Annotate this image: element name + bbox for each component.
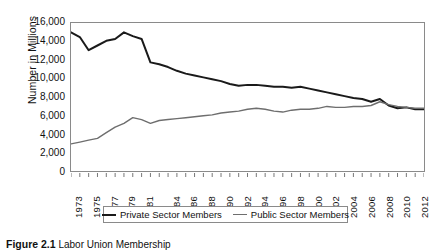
chart-legend: Private Sector Members Public Sector Mem… bbox=[103, 206, 348, 223]
figure-caption-number: Figure 2.1 bbox=[6, 238, 56, 250]
legend-line-public-icon bbox=[233, 214, 247, 215]
y-tick-label: 2,000 bbox=[20, 148, 65, 158]
y-tick-label: 8,000 bbox=[20, 92, 65, 102]
x-tick-label: 1975 bbox=[92, 196, 102, 218]
figure-caption: Figure 2.1 Labor Union Membership bbox=[6, 238, 431, 251]
y-tick-label: 0 bbox=[20, 167, 65, 177]
x-tick-label: 2008 bbox=[385, 196, 395, 218]
chart-lines bbox=[71, 23, 424, 178]
legend-item-private: Private Sector Members bbox=[102, 210, 222, 220]
y-tick-label: 14,000 bbox=[20, 36, 65, 46]
legend-item-public: Public Sector Members bbox=[233, 210, 349, 220]
x-tick-label: 2010 bbox=[402, 196, 412, 218]
legend-line-private-icon bbox=[102, 214, 116, 216]
y-axis-tick-labels: 02,0004,0006,0008,00010,00012,00014,0001… bbox=[20, 0, 65, 249]
x-tick-label: 2004 bbox=[349, 196, 359, 218]
series-line-private bbox=[71, 32, 424, 109]
series-line-public bbox=[71, 102, 424, 144]
y-tick-label: 16,000 bbox=[20, 17, 65, 27]
y-tick-label: 12,000 bbox=[20, 55, 65, 65]
y-tick-label: 6,000 bbox=[20, 111, 65, 121]
x-tick-label: 1973 bbox=[74, 196, 84, 218]
legend-label-private: Private Sector Members bbox=[120, 210, 222, 220]
plot-area bbox=[70, 22, 425, 172]
legend-label-public: Public Sector Members bbox=[251, 210, 349, 220]
y-tick-label: 4,000 bbox=[20, 130, 65, 140]
y-tick-label: 10,000 bbox=[20, 73, 65, 83]
figure-caption-text: Labor Union Membership bbox=[58, 239, 170, 250]
x-tick-label: 2012 bbox=[420, 196, 430, 218]
x-tick-label: 2006 bbox=[367, 196, 377, 218]
